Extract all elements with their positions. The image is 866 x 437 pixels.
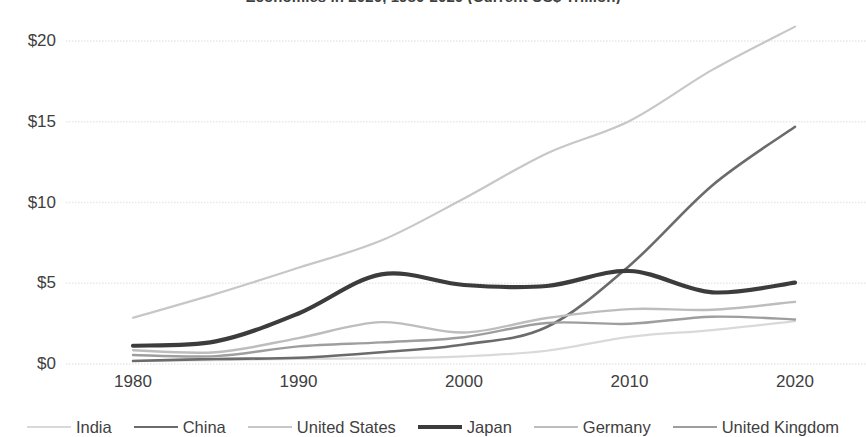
legend-item-united-states[interactable]: United States [248,418,396,437]
legend-label: Germany [583,418,651,437]
gdp-line-chart: Economies in 2020, 1980-2020 (Current US… [0,0,866,437]
x-tick-1990: 1990 [259,373,339,390]
x-tick-2020: 2020 [755,373,835,390]
x-tick-2000: 2000 [424,373,504,390]
gridlines [66,41,866,364]
legend-label: United Kingdom [722,418,839,437]
x-tick-2010: 2010 [590,373,670,390]
x-tick-1980: 1980 [93,373,173,390]
legend-label: India [76,418,112,437]
legend-item-united-kingdom[interactable]: United Kingdom [673,418,839,437]
legend-swatch-icon [673,426,717,428]
series-lines [133,27,795,361]
legend-label: United States [297,418,396,437]
y-tick-0: $0 [0,355,56,372]
legend-item-japan[interactable]: Japan [418,418,512,437]
y-tick-10: $10 [0,194,56,211]
y-tick-20: $20 [0,32,56,49]
legend-item-india[interactable]: India [27,418,112,437]
legend-label: Japan [467,418,512,437]
legend-swatch-icon [248,426,292,428]
legend-item-germany[interactable]: Germany [534,418,651,437]
series-line-united-states [133,27,795,318]
series-line-china [133,127,795,361]
chart-legend: IndiaChinaUnited StatesJapanGermanyUnite… [0,417,866,437]
legend-swatch-icon [27,426,71,428]
legend-swatch-icon [534,426,578,428]
legend-swatch-icon [134,426,178,428]
legend-label: China [183,418,226,437]
legend-swatch-icon [418,425,462,429]
y-tick-5: $5 [0,274,56,291]
legend-item-china[interactable]: China [134,418,226,437]
y-tick-15: $15 [0,113,56,130]
series-line-japan [133,271,795,346]
